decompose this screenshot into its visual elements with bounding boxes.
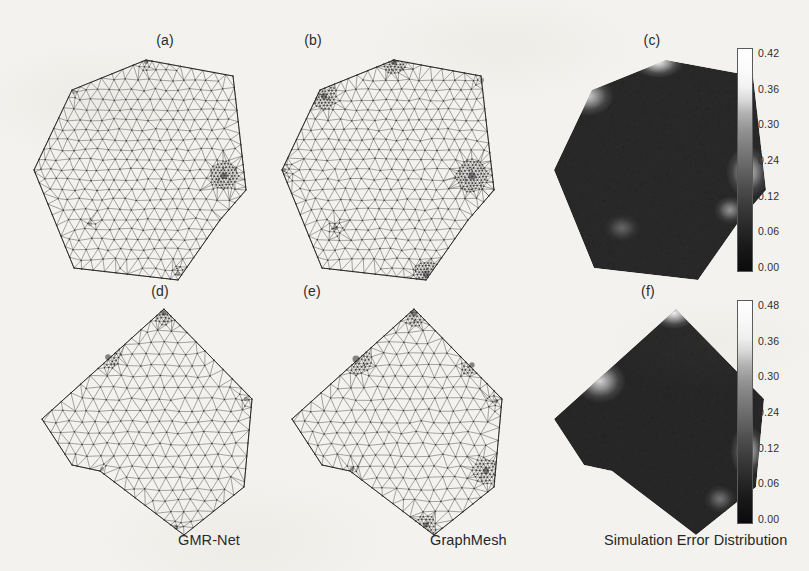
panel-label-b: (b) bbox=[283, 32, 343, 48]
colorbar-tick-label: 0.06 bbox=[758, 477, 779, 489]
panel-label-f: (f) bbox=[618, 283, 678, 299]
panel-a-mesh bbox=[28, 52, 258, 292]
column-caption-simulation-error: Simulation Error Distribution bbox=[604, 532, 787, 548]
colorbar-tick-label: 0.42 bbox=[758, 47, 779, 59]
mesh-diagram-graphmesh-quadrilateral bbox=[286, 303, 516, 543]
panel-b-mesh bbox=[276, 52, 506, 292]
column-caption-graphmesh: GraphMesh bbox=[430, 532, 507, 548]
colorbar-tick-label: 0.30 bbox=[758, 118, 779, 130]
panel-label-e: (e) bbox=[282, 283, 342, 299]
colorbar-tick-label: 0.24 bbox=[758, 406, 779, 418]
colorbar-panel-f bbox=[737, 300, 753, 524]
colorbar-tick-label: 0.36 bbox=[758, 335, 779, 347]
colorbar-tick-label: 0.36 bbox=[758, 83, 779, 95]
mesh-diagram-graphmesh-heptagon bbox=[276, 52, 506, 292]
mesh-diagram-gmr-net-heptagon bbox=[28, 52, 258, 292]
column-caption-gmr-net: GMR-Net bbox=[178, 532, 240, 548]
colorbar-tick-label: 0.24 bbox=[758, 154, 779, 166]
colorbar-tick-label: 0.12 bbox=[758, 190, 779, 202]
panel-label-a: (a) bbox=[135, 32, 195, 48]
colorbar-panel-c bbox=[737, 48, 753, 272]
panel-e-mesh bbox=[286, 303, 516, 543]
colorbar-tick-label: 0.00 bbox=[758, 513, 779, 525]
mesh-diagram-gmr-net-quadrilateral bbox=[36, 303, 266, 543]
figure-canvas: (a) (b) (c) 0.420.360.300.240.120.060.00… bbox=[0, 0, 809, 571]
colorbar-tick-label: 0.30 bbox=[758, 370, 779, 382]
colorbar-tick-label: 0.06 bbox=[758, 225, 779, 237]
panel-d-mesh bbox=[36, 303, 266, 543]
panel-label-d: (d) bbox=[130, 283, 190, 299]
colorbar-tick-label: 0.12 bbox=[758, 442, 779, 454]
panel-label-c: (c) bbox=[622, 32, 682, 48]
colorbar-tick-label: 0.48 bbox=[758, 299, 779, 311]
colorbar-tick-label: 0.00 bbox=[758, 261, 779, 273]
